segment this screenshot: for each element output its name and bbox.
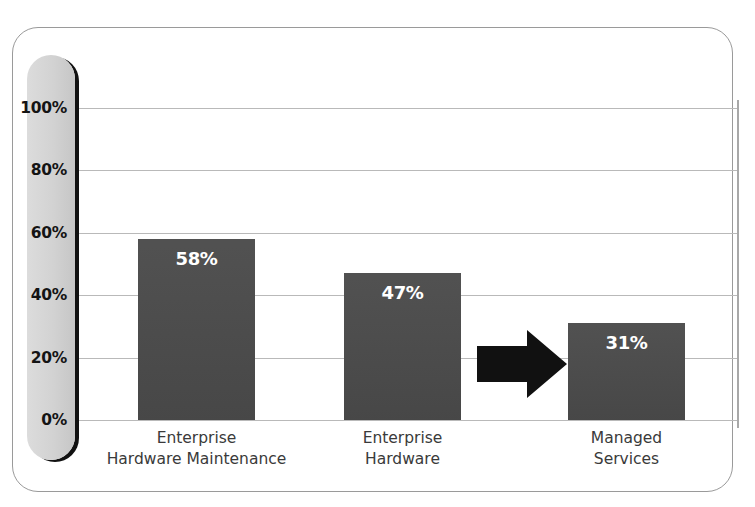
gridline-60 <box>75 233 737 234</box>
y-axis-capsule: 100% 80% 60% 40% 20% 0% <box>27 55 75 460</box>
category-label-line: Hardware Maintenance <box>86 449 307 470</box>
y-tick-20: 20% <box>31 349 67 367</box>
bar-value-label: 47% <box>344 282 461 303</box>
category-label-line: Enterprise <box>322 428 483 449</box>
category-label-line: Services <box>546 449 707 470</box>
category-label-enterprise-hardware-maintenance: Enterprise Hardware Maintenance <box>86 428 307 470</box>
axis-right-edge <box>737 100 739 428</box>
y-tick-40: 40% <box>31 286 67 304</box>
y-tick-60: 60% <box>31 224 67 242</box>
gridline-80 <box>75 170 737 171</box>
y-tick-0: 0% <box>41 411 67 429</box>
category-label-line: Enterprise <box>86 428 307 449</box>
bar-enterprise-hardware-maintenance[interactable]: 58% <box>138 239 255 420</box>
category-label-enterprise-hardware: Enterprise Hardware <box>322 428 483 470</box>
bar-enterprise-hardware[interactable]: 47% <box>344 273 461 420</box>
category-label-managed-services: Managed Services <box>546 428 707 470</box>
category-label-line: Hardware <box>322 449 483 470</box>
gridline-100 <box>75 108 737 109</box>
y-tick-80: 80% <box>31 161 67 179</box>
bar-managed-services[interactable]: 31% <box>568 323 685 420</box>
y-tick-100: 100% <box>20 99 67 117</box>
right-arrow-icon <box>475 328 569 400</box>
bar-value-label: 31% <box>568 332 685 353</box>
category-label-line: Managed <box>546 428 707 449</box>
chart-figure: 58% 47% 31% 100% 80% 60% 40% 20% 0% Ente… <box>0 0 755 507</box>
gridline-0 <box>75 420 737 421</box>
bar-value-label: 58% <box>138 248 255 269</box>
